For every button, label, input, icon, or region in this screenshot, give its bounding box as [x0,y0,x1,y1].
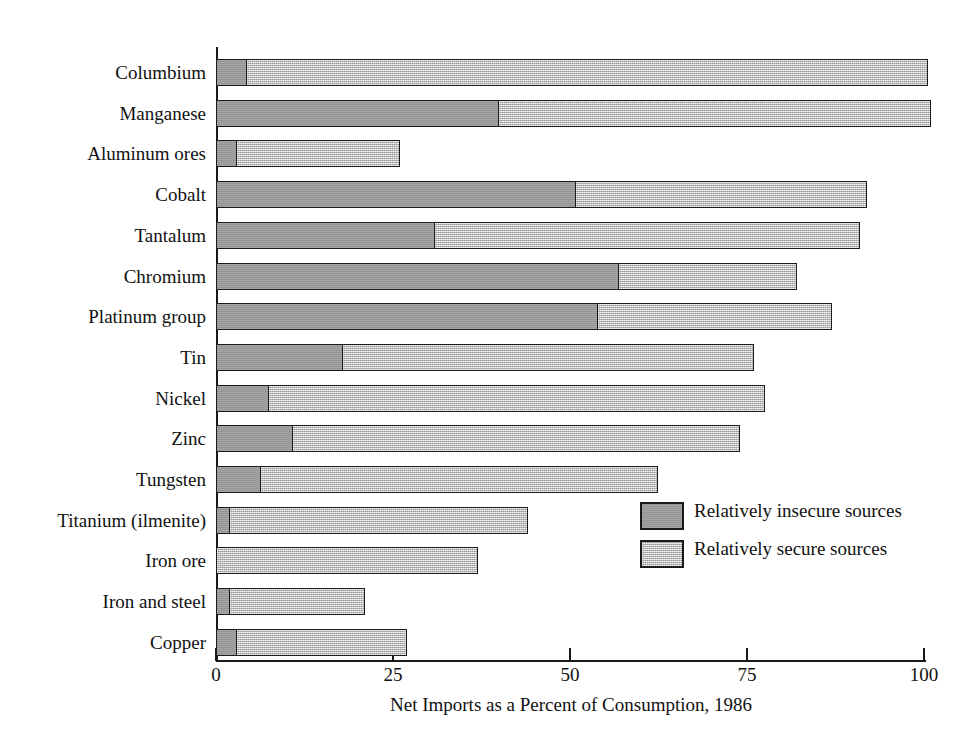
x-tick-label-0: 0 [186,664,246,686]
category-label-nickel: Nickel [155,388,206,410]
bar-segment-insecure [216,385,269,412]
category-label-chromium: Chromium [124,266,206,288]
bar-segment-secure [229,588,365,615]
category-label-tin: Tin [180,347,206,369]
bar-segment-secure [575,181,867,208]
bar-segment-secure [236,629,408,656]
legend-label-insecure: Relatively insecure sources [694,500,902,522]
legend-item-secure: Relatively secure sources [640,538,940,568]
x-tick-100 [923,648,925,661]
category-label-iron-ore: Iron ore [145,550,206,572]
category-label-iron-and-steel: Iron and steel [103,591,206,613]
bar-segment-insecure [216,140,237,167]
bar-segment-secure [597,303,832,330]
bar-segment-insecure [216,181,577,208]
x-tick-label-25: 25 [363,664,423,686]
bar-segment-secure [434,222,860,249]
bar-segment-insecure [216,222,435,249]
x-tick-50 [569,648,571,661]
category-label-tantalum: Tantalum [135,225,206,247]
x-tick-label-50: 50 [540,664,600,686]
bar-segment-insecure [216,425,294,452]
x-tick-label-75: 75 [717,664,777,686]
legend-item-insecure: Relatively insecure sources [640,500,940,530]
bar-segment-insecure [216,344,343,371]
bar-segment-secure [216,547,478,574]
legend-label-secure: Relatively secure sources [694,538,887,560]
category-label-copper: Copper [150,632,206,654]
chart-legend: Relatively insecure sources Relatively s… [640,500,940,576]
bar-segment-secure [260,466,658,493]
bar-segment-insecure [216,466,262,493]
x-axis-line [216,660,926,662]
bar-segment-secure [268,385,765,412]
bar-segment-insecure [216,100,499,127]
bar-segment-secure [246,59,927,86]
x-tick-75 [746,648,748,661]
bar-segment-secure [342,344,754,371]
bar-segment-secure [618,263,797,290]
x-tick-label-100: 100 [894,664,954,686]
category-label-zinc: Zinc [171,428,206,450]
category-label-aluminum-ores: Aluminum ores [87,143,206,165]
category-label-cobalt: Cobalt [155,184,206,206]
category-label-tungsten: Tungsten [136,469,206,491]
bar-segment-insecure [216,629,237,656]
bar-segment-insecure [216,303,598,330]
category-label-columbium: Columbium [115,62,206,84]
x-axis-title: Net Imports as a Percent of Consumption,… [216,694,926,716]
bar-segment-insecure [216,263,620,290]
legend-swatch-insecure [640,502,684,530]
bar-segment-secure [229,507,528,534]
category-label-titanium-ilmenite: Titanium (ilmenite) [57,510,206,532]
legend-swatch-secure [640,540,684,568]
bar-segment-secure [498,100,931,127]
category-label-manganese: Manganese [119,103,206,125]
chart-figure: 0255075100 ColumbiumManganeseAluminum or… [0,0,980,752]
category-label-platinum-group: Platinum group [88,306,206,328]
bar-segment-insecure [216,59,248,86]
bar-segment-secure [236,140,400,167]
bar-segment-secure [292,425,740,452]
